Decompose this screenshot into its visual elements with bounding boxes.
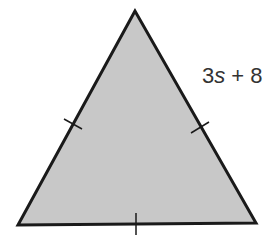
equilateral-triangle [18, 11, 256, 225]
triangle-diagram [0, 0, 274, 243]
constant-term: + 8 [225, 63, 262, 88]
side-length-label: 3s + 8 [202, 63, 263, 89]
coefficient: 3 [202, 63, 214, 88]
variable: s [214, 63, 225, 88]
